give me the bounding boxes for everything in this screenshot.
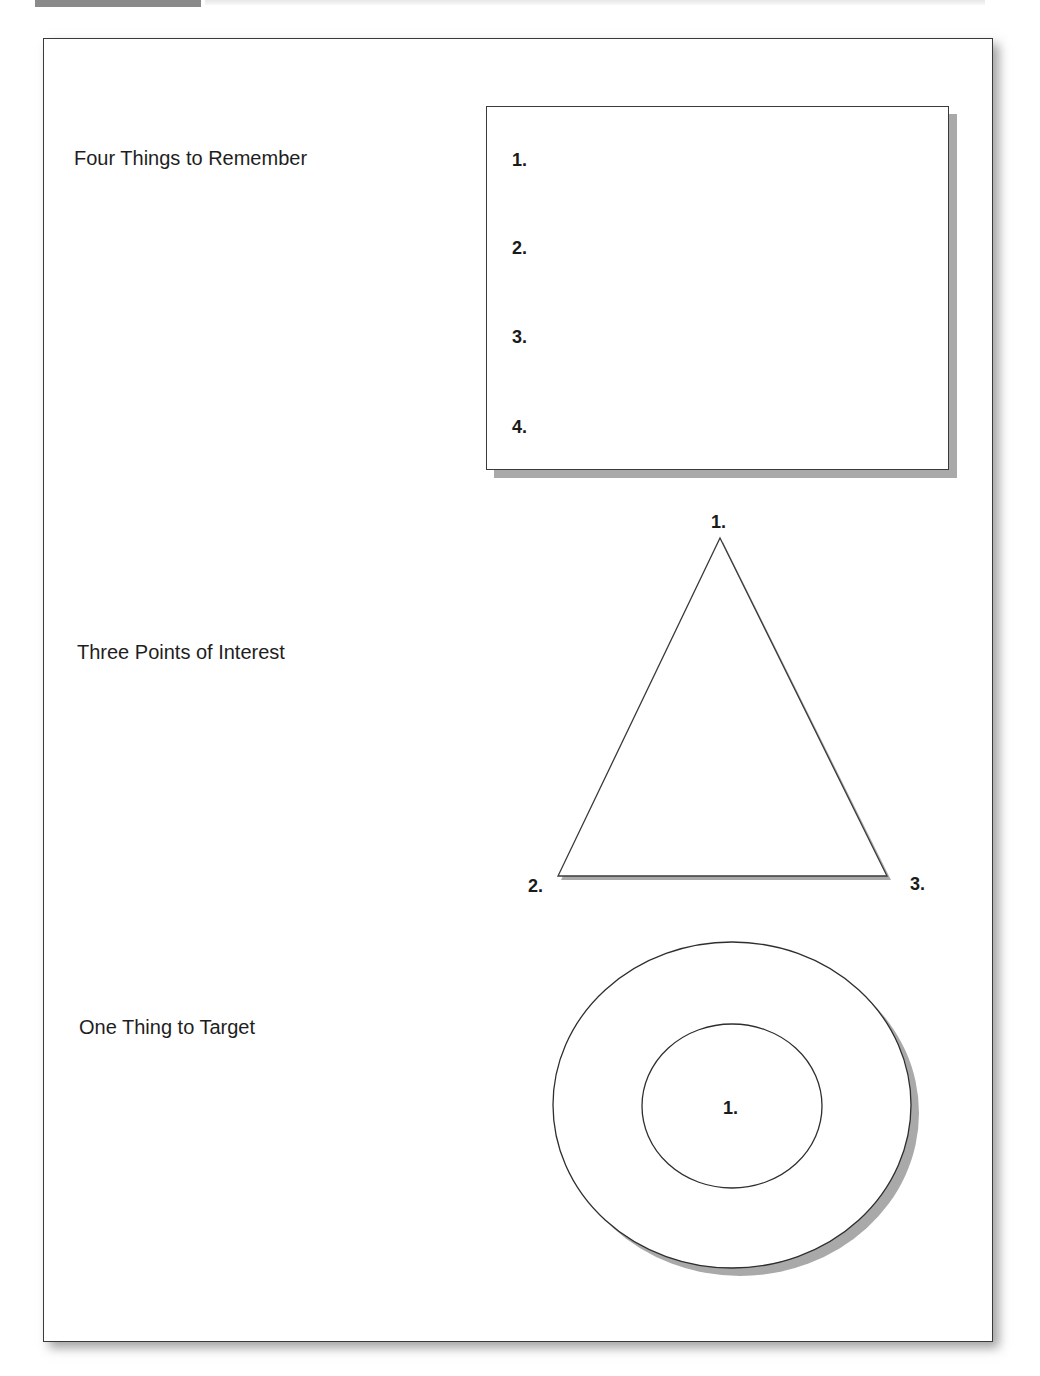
list-item-number: 3.	[512, 327, 527, 347]
list-item-number: 2.	[512, 238, 527, 258]
list-item-number: 4.	[512, 417, 527, 437]
list-item-number: 1.	[512, 150, 527, 170]
cropped-caption-text	[205, 0, 985, 5]
row-label-four-things: Four Things to Remember	[74, 146, 307, 170]
target-center-label: 1.	[723, 1098, 738, 1118]
triangle-vertex-2-label: 2.	[528, 876, 543, 896]
triangle-vertex-3-label: 3.	[910, 874, 925, 894]
row-label-one-thing: One Thing to Target	[79, 1015, 255, 1039]
row-label-three-points: Three Points of Interest	[77, 640, 285, 664]
four-things-box: 1. 2. 3. 4.	[486, 106, 949, 470]
figure-caption-tab	[35, 0, 201, 7]
triangle-vertex-1-label: 1.	[711, 512, 726, 532]
